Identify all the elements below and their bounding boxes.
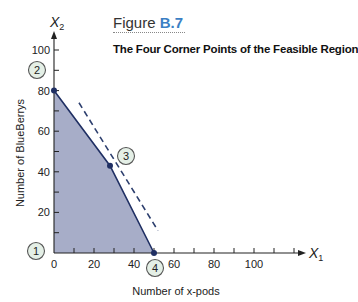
corner-callout-label: 4 — [152, 262, 158, 274]
corner-callout-label: 1 — [33, 245, 39, 257]
y-tick-label: 20 — [38, 206, 50, 218]
x-tick-label: 40 — [128, 258, 140, 270]
x-axis-symbol: X1 — [308, 245, 323, 263]
y-axis-title: Number of BlueBerrys — [14, 98, 26, 207]
corner-point-marker — [151, 250, 157, 256]
y-axis-arrow-icon — [51, 31, 57, 39]
y-tick-label: 100 — [32, 44, 50, 56]
corner-callout-label: 3 — [123, 150, 129, 162]
y-tick-label: 40 — [38, 166, 50, 178]
corner-point-marker — [51, 88, 57, 94]
corner-point-marker — [107, 163, 113, 169]
x-axis-title: Number of x-pods — [132, 285, 220, 297]
feasible-region — [54, 91, 154, 253]
y-axis-symbol: X2 — [49, 14, 64, 32]
x-tick-label: 100 — [245, 258, 263, 270]
x-tick-label: 20 — [88, 258, 100, 270]
x-tick-label: 60 — [168, 258, 180, 270]
corner-callout-label: 2 — [34, 64, 40, 76]
feasible-region-fill — [54, 91, 154, 253]
x-tick-label: 80 — [208, 258, 220, 270]
y-tick-label: 80 — [38, 85, 50, 97]
y-tick-label: 60 — [38, 125, 50, 137]
x-axis-arrow-icon — [298, 250, 306, 256]
x-tick-label: 0 — [51, 258, 57, 270]
